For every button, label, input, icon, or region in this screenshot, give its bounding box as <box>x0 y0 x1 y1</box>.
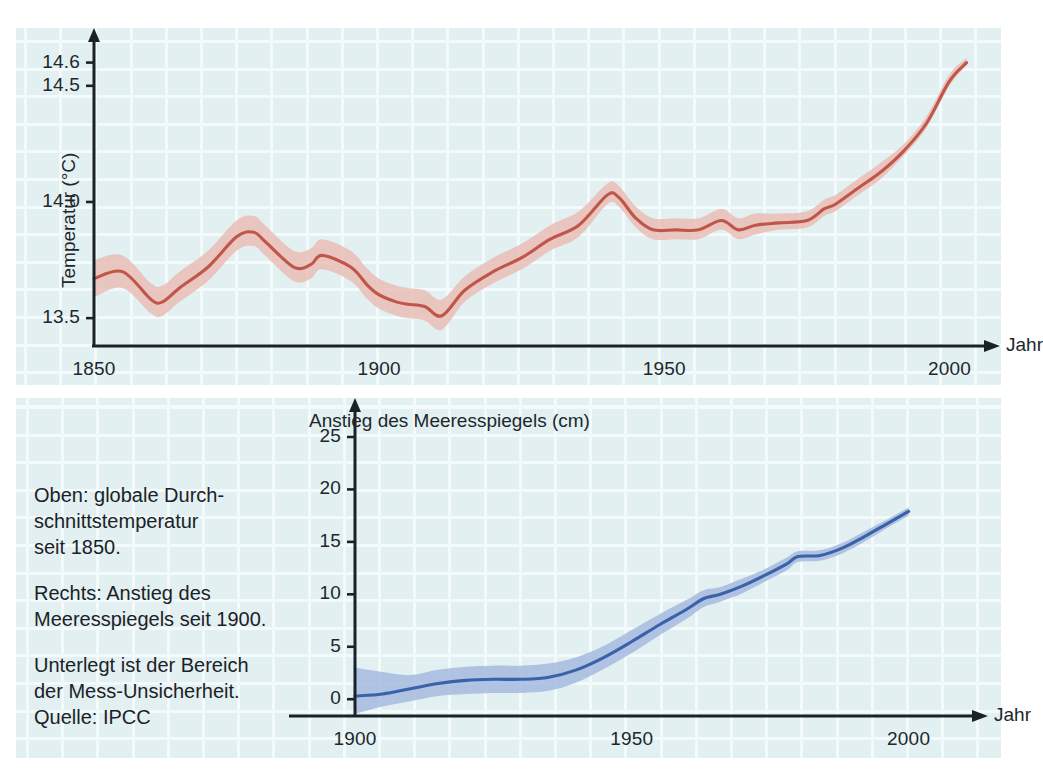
temperature-x-tick-1900: 1900 <box>353 358 405 380</box>
temperature-x-tick-1850: 1850 <box>68 358 120 380</box>
caption-paragraph-3: Unterlegt ist der Bereich der Mess-Unsic… <box>34 652 304 730</box>
temperature-x-tick-2000: 2000 <box>923 358 975 380</box>
sea-level-x-tick-2000: 2000 <box>883 728 935 750</box>
temperature-x-tick-1950: 1950 <box>638 358 690 380</box>
temperature-y-tick-14-0: 14.0 <box>16 190 80 212</box>
temperature-x-axis-label: Jahr <box>1006 334 1043 356</box>
sea-level-x-tick-1900: 1900 <box>329 728 381 750</box>
sea-level-y-tick-25: 25 <box>279 425 341 447</box>
sea-level-chart-title: Anstieg des Meeresspiegels (cm) <box>309 410 590 432</box>
temperature-y-axis-label: Temperatur (°C) <box>58 153 80 288</box>
temperature-y-tick-13-5: 13.5 <box>16 306 80 328</box>
temperature-y-tick-14-5: 14.5 <box>16 74 80 96</box>
caption-paragraph-1: Oben: globale Durch- schnittstemperatur … <box>34 482 304 560</box>
temperature-y-tick-14-6: 14.6 <box>16 51 80 73</box>
caption-block: Oben: globale Durch- schnittstemperatur … <box>34 482 304 730</box>
sea-level-x-axis-label: Jahr <box>994 704 1031 726</box>
caption-paragraph-2: Rechts: Anstieg des Meeresspiegels seit … <box>34 580 304 632</box>
sea-level-x-tick-1950: 1950 <box>606 728 658 750</box>
temperature-plot <box>16 28 1001 385</box>
temperature-chart-panel <box>16 28 1001 385</box>
